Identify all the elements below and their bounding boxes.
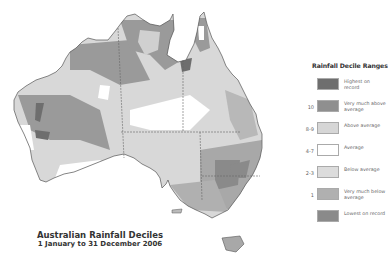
legend-swatch — [317, 144, 339, 156]
map-title: Australian Rainfall Deciles — [0, 230, 200, 240]
legend-range: 1 — [300, 192, 314, 198]
legend-label: Above average — [344, 123, 386, 129]
map-subtitle: 1 January to 31 December 2006 — [0, 240, 200, 249]
legend-swatch — [317, 122, 339, 134]
australia-rainfall-map — [0, 0, 300, 261]
legend-label: Very much above average — [344, 101, 386, 112]
legend-label: Below average — [344, 167, 386, 173]
legend-range: 10 — [300, 104, 314, 110]
legend-label: Very much below average — [344, 189, 386, 200]
legend-range: 4-7 — [300, 148, 314, 154]
legend-item-above: 8-9 Above average — [300, 122, 385, 138]
legend-label: Lowest on record — [344, 211, 386, 217]
decile-shading — [0, 0, 300, 261]
legend-title: Rainfall Decile Ranges — [312, 62, 388, 69]
legend-item-highest: Highest on record — [300, 78, 385, 94]
legend-swatch — [317, 188, 339, 200]
legend-item-below: 2-3 Below average — [300, 166, 385, 182]
legend-range: 8-9 — [300, 126, 314, 132]
map-title-block: Australian Rainfall Deciles 1 January to… — [0, 230, 200, 249]
kangaroo-island — [172, 209, 182, 213]
legend-swatch — [317, 210, 339, 222]
legend-item-very-much-below: 1 Very much below average — [300, 188, 385, 204]
legend-swatch — [317, 166, 339, 178]
legend-range: 2-3 — [300, 170, 314, 176]
tasmania — [222, 236, 244, 252]
legend-swatch — [317, 78, 339, 90]
legend-swatch — [317, 100, 339, 112]
legend-label: Average — [344, 145, 386, 151]
legend-item-very-much-above: 10 Very much above average — [300, 100, 385, 116]
legend-label: Highest on record — [344, 79, 386, 90]
legend-item-lowest: Lowest on record — [300, 210, 385, 226]
legend-item-average: 4-7 Average — [300, 144, 385, 160]
